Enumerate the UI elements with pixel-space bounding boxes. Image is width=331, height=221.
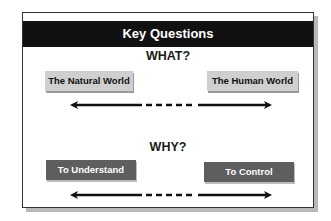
to-control-box: To Control bbox=[204, 162, 294, 182]
what-question-heading: WHAT? bbox=[23, 49, 313, 63]
why-question-heading: WHY? bbox=[23, 140, 313, 154]
to-understand-box: To Understand bbox=[46, 160, 136, 180]
what-spectrum-arrow-icon bbox=[70, 100, 272, 110]
natural-world-box: The Natural World bbox=[45, 71, 133, 91]
human-world-box: The Human World bbox=[207, 71, 298, 91]
panel-title: Key Questions bbox=[23, 21, 313, 47]
key-questions-panel: Key Questions WHAT? The Natural World Th… bbox=[22, 12, 314, 208]
why-spectrum-arrow-icon bbox=[70, 190, 272, 200]
